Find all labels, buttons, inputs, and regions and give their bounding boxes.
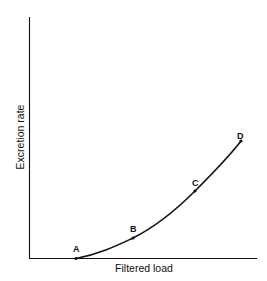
y-axis-title: Excretion rate (14, 104, 26, 169)
point-d-label: D (237, 131, 244, 141)
point-c-marker (193, 189, 196, 192)
point-a-marker (74, 257, 77, 260)
chart: A B C D Filtered load Excretion rate (0, 0, 267, 281)
point-a-label: A (73, 244, 80, 254)
point-c-label: C (192, 178, 199, 188)
point-b-label: B (130, 224, 137, 234)
point-b-marker (131, 236, 134, 239)
x-axis-title: Filtered load (115, 262, 173, 274)
excretion-curve (76, 141, 241, 259)
